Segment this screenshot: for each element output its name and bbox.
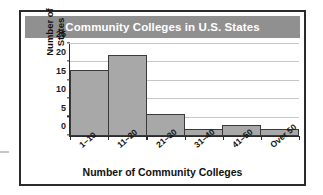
y-tick-label: 0 [61,121,66,131]
y-tick-label: 15 [56,66,66,76]
y-tick-label: 20 [56,47,66,57]
bar-series [70,44,299,136]
chart-title: Community Colleges in U.S. States [65,21,259,33]
page-edge-artifact [0,151,9,153]
x-axis-title: Number of Community Colleges [21,166,304,178]
y-axis-title-line-1: Number of [44,8,55,56]
bar [70,70,109,136]
bar [108,55,147,136]
y-tick-label: 10 [56,84,66,94]
chart-figure-frame: Community Colleges in U.S. States Number… [19,10,306,186]
y-tick-label: 25 [56,29,66,39]
x-tick-mark [299,136,300,140]
y-tick-label: 5 [61,103,66,113]
plot-area: 0510152025 [69,44,299,137]
